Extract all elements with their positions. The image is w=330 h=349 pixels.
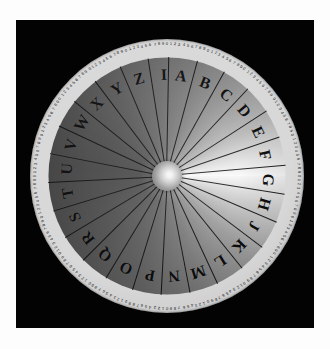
letter-glyph: P: [143, 266, 155, 283]
scale-numeral-glyph: 8: [214, 296, 218, 301]
scale-numeral-glyph: 3: [153, 305, 156, 309]
scale-numeral-glyph: 5: [186, 304, 189, 308]
photo-plate: ABCDEFGHJKLMNPOQRSTUVWXYZI 0123456789012…: [16, 20, 314, 328]
letter-glyph: U: [58, 163, 75, 176]
scale-numeral-glyph: 1: [297, 179, 301, 181]
scale-numeral-glyph: 7: [293, 203, 297, 206]
scale-numeral-glyph: 6: [182, 305, 185, 309]
scale-numeral-glyph: 5: [186, 44, 189, 48]
scale-numeral-glyph: 0: [166, 42, 168, 46]
scale-numeral-glyph: 6: [190, 44, 193, 48]
scale-numeral-glyph: 0: [166, 306, 168, 310]
scale-numeral-glyph: 9: [297, 171, 301, 173]
scale-numeral-glyph: 0: [290, 215, 295, 218]
scale-numeral-glyph: 0: [297, 175, 301, 177]
scale-numeral-glyph: 4: [190, 303, 193, 307]
scale-numeral-glyph: 9: [210, 298, 214, 303]
scale-numeral-glyph: 0: [206, 299, 209, 304]
letter-glyph: N: [168, 268, 181, 285]
scale-numeral-glyph: 2: [33, 166, 37, 169]
scale-numeral-glyph: 1: [289, 219, 294, 223]
letter-glyph: G: [259, 173, 275, 186]
scale-numeral-glyph: 5: [295, 195, 299, 198]
scale-numeral-glyph: 8: [296, 166, 300, 169]
page-root: ABCDEFGHJKLMNPOQRSTUVWXYZI 0123456789012…: [0, 0, 330, 349]
scale-numeral-glyph: 9: [170, 306, 172, 310]
scale-numeral-glyph: 1: [33, 171, 37, 173]
cipher-disk[interactable]: ABCDEFGHJKLMNPOQRSTUVWXYZI 0123456789012…: [30, 39, 304, 313]
scale-numeral-glyph: 7: [153, 43, 156, 47]
scale-numeral-glyph: 1: [170, 42, 172, 46]
scale-numeral-glyph: 9: [33, 179, 37, 181]
scale-numeral-glyph: 6: [294, 199, 298, 202]
scale-numeral-glyph: 8: [292, 207, 297, 210]
scale-numeral-glyph: 0: [33, 175, 37, 177]
scale-numeral-glyph: 4: [296, 191, 300, 194]
center-hub[interactable]: [152, 161, 182, 191]
scale-numeral-glyph: 4: [182, 43, 185, 47]
letter-glyph: I: [160, 67, 167, 83]
scale-numeral-glyph: 2: [198, 301, 201, 306]
scale-numeral-glyph: 8: [157, 42, 160, 46]
scale-numeral-glyph: 4: [35, 199, 39, 202]
scale-numeral-glyph: 7: [296, 162, 300, 165]
scale-numeral-glyph: 3: [194, 302, 197, 306]
scale-numeral-glyph: 5: [35, 195, 39, 198]
scale-numeral-glyph: 2: [157, 305, 160, 309]
scale-numeral-glyph: 6: [34, 191, 38, 194]
scale-numeral-glyph: 1: [162, 306, 164, 310]
scale-numeral-glyph: 3: [34, 162, 38, 165]
scale-numeral-glyph: 9: [162, 42, 164, 46]
letter-glyph: A: [174, 68, 188, 85]
